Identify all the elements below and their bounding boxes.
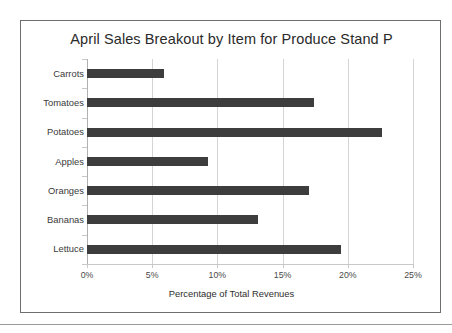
x-tick-mark: [283, 264, 284, 268]
x-tick-label: 15%: [263, 270, 303, 280]
x-tick-mark: [348, 264, 349, 268]
x-axis-baseline: [87, 264, 413, 265]
bar-row: [87, 88, 413, 117]
x-tick-mark: [87, 264, 88, 268]
bar-apples[interactable]: [87, 157, 208, 166]
category-label-potatoes: Potatoes: [22, 126, 84, 137]
x-tick-label: 20%: [328, 270, 368, 280]
y-tick-mark: [82, 264, 87, 265]
x-tick-label: 0%: [67, 270, 107, 280]
category-label-apples: Apples: [22, 156, 84, 167]
plot-area: [87, 59, 413, 264]
chart-title: April Sales Breakout by Item for Produce…: [21, 31, 442, 47]
category-label-oranges: Oranges: [22, 185, 84, 196]
bar-tomatoes[interactable]: [87, 98, 314, 107]
bar-bananas[interactable]: [87, 215, 258, 224]
x-tick-label: 10%: [197, 270, 237, 280]
bar-row: [87, 205, 413, 234]
bar-row: [87, 235, 413, 264]
x-tick-mark: [413, 264, 414, 268]
category-label-carrots: Carrots: [22, 68, 84, 79]
x-tick-mark: [152, 264, 153, 268]
bar-row: [87, 147, 413, 176]
gridline-25pct: [413, 59, 414, 264]
x-tick-label: 5%: [132, 270, 172, 280]
bar-row: [87, 118, 413, 147]
x-tick-mark: [217, 264, 218, 268]
bottom-separator-rule: [0, 324, 452, 325]
x-axis-title: Percentage of Total Revenues: [21, 288, 442, 299]
bar-lettuce[interactable]: [87, 245, 341, 254]
category-label-bananas: Bananas: [22, 214, 84, 225]
category-label-tomatoes: Tomatoes: [22, 97, 84, 108]
x-tick-label: 25%: [393, 270, 433, 280]
bar-oranges[interactable]: [87, 186, 309, 195]
bar-potatoes[interactable]: [87, 128, 382, 137]
bar-carrots[interactable]: [87, 69, 164, 78]
bar-row: [87, 176, 413, 205]
chart-frame: April Sales Breakout by Item for Produce…: [20, 20, 441, 313]
category-label-lettuce: Lettuce: [22, 243, 84, 254]
bar-row: [87, 59, 413, 88]
